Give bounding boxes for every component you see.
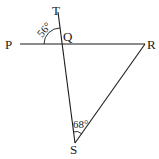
angle-label-68: 68° [73,118,88,130]
label-q: Q [63,29,73,44]
geometry-diagram: T Q P R S 56° 68° [0,0,159,159]
label-t: T [52,3,60,18]
label-p: P [5,37,12,52]
angle-label-56: 56° [34,20,53,40]
angle-arc-s [73,131,82,134]
label-r: R [147,37,156,52]
label-s: S [70,142,77,157]
